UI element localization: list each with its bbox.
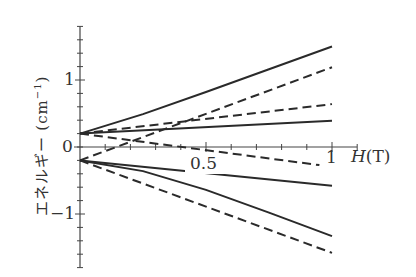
- y-tick-label-1: 1: [64, 69, 75, 89]
- y-axis-label: エネルギー (cm−1): [30, 76, 51, 217]
- x-axis-label: H(T): [351, 146, 390, 166]
- series-lines: [80, 47, 332, 253]
- y-axis-label-exponent: −1: [32, 82, 43, 99]
- x-axis-unit: (T): [366, 146, 391, 166]
- y-tick-label-minus-1: −1: [50, 203, 75, 223]
- y-tick-label-0: 0: [62, 136, 73, 156]
- series-upper-dashed-mid: [80, 104, 332, 133]
- series-lower-dashed-steep: [80, 160, 332, 252]
- x-axis-variable: H: [351, 146, 366, 166]
- x-tick-label-1: 1: [326, 147, 337, 167]
- series-upper-solid-steep: [80, 47, 332, 134]
- x-tick-label-0.5: 0.5: [190, 153, 217, 173]
- axes: [74, 26, 357, 267]
- y-axis-label-text: エネルギー (cm: [33, 99, 51, 216]
- y-axis-label-close: ): [33, 76, 51, 83]
